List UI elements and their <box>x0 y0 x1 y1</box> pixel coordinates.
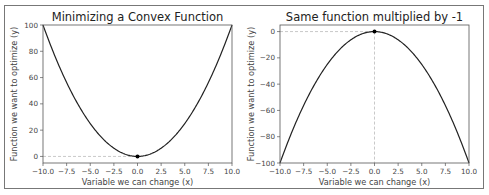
y-tick-label: 100 <box>24 21 38 30</box>
x-tick-label: 10.0 <box>461 167 477 176</box>
x-tick-label: −10.0 <box>32 167 54 176</box>
x-axis-label: Variable we can change (x) <box>319 177 430 187</box>
x-tick-label: −7.5 <box>295 167 312 176</box>
x-tick-label: 5.0 <box>416 167 428 176</box>
x-tick-label: −7.5 <box>58 167 75 176</box>
y-tick-label: 80 <box>29 47 39 56</box>
x-tick-label: −5.0 <box>319 167 337 176</box>
function-curve <box>43 25 232 156</box>
x-tick-label: 5.0 <box>179 167 191 176</box>
y-tick-label: 0 <box>270 27 275 36</box>
x-tick-label: −2.5 <box>342 167 359 176</box>
chart-concave: Same function multiplied by -1−10.0−7.5−… <box>246 10 477 187</box>
y-tick-label: −40 <box>260 80 276 89</box>
y-tick-label: −20 <box>260 53 276 62</box>
x-tick-label: 2.5 <box>392 167 403 176</box>
x-tick-label: −2.5 <box>105 167 122 176</box>
y-tick-label: −80 <box>260 132 276 141</box>
y-tick-label: 60 <box>29 73 39 82</box>
x-tick-label: 2.5 <box>155 167 166 176</box>
x-tick-label: −5.0 <box>82 167 100 176</box>
optimum-point <box>373 30 377 34</box>
x-tick-label: 7.5 <box>203 167 214 176</box>
chart-title: Same function multiplied by -1 <box>286 10 463 24</box>
x-tick-label: −10.0 <box>269 167 291 176</box>
y-tick-label: −100 <box>255 159 275 168</box>
y-tick-label: 20 <box>29 126 39 135</box>
y-axis-label: Function we want to optimize (y) <box>246 27 256 161</box>
y-axis-label: Function we want to optimize (y) <box>9 27 19 161</box>
axes-frame <box>43 25 232 163</box>
x-tick-label: 7.5 <box>440 167 451 176</box>
x-tick-label: 0.0 <box>132 167 144 176</box>
y-tick-label: −60 <box>260 106 276 115</box>
x-axis-label: Variable we can change (x) <box>82 177 193 187</box>
optimum-point <box>136 154 140 158</box>
y-tick-label: 0 <box>33 152 38 161</box>
x-tick-label: 10.0 <box>224 167 240 176</box>
figure-canvas: Minimizing a Convex Function−10.0−7.5−5.… <box>0 0 489 195</box>
y-tick-label: 40 <box>29 99 39 108</box>
chart-convex: Minimizing a Convex Function−10.0−7.5−5.… <box>9 10 240 187</box>
chart-title: Minimizing a Convex Function <box>52 10 224 24</box>
x-tick-label: 0.0 <box>369 167 381 176</box>
